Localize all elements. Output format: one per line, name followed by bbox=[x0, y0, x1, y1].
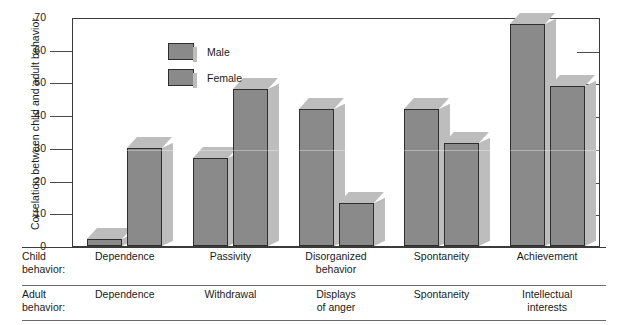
adult-cell-2: Displaysof anger bbox=[281, 288, 391, 314]
bar-face bbox=[299, 109, 334, 246]
label-line1: Dependence bbox=[70, 288, 180, 301]
child-behavior-row: Child behavior: DependencePassivityDisor… bbox=[22, 249, 606, 279]
chart-figure: Correlation between child and adult beha… bbox=[0, 0, 627, 325]
bar-shadow-side bbox=[162, 142, 173, 246]
adult-cell-0: Dependence bbox=[70, 288, 180, 301]
y-tick-label: .70 bbox=[31, 11, 46, 23]
bar-face bbox=[404, 109, 439, 246]
legend-swatch-female bbox=[168, 69, 194, 86]
bar-face bbox=[339, 203, 374, 246]
bar-face bbox=[444, 143, 479, 246]
y-tick-mark bbox=[50, 214, 72, 215]
bar-face bbox=[127, 148, 162, 246]
label-line2: interests bbox=[492, 301, 602, 314]
y-tick-label: .20 bbox=[31, 175, 46, 187]
label-line1: Spontaneity bbox=[387, 250, 497, 263]
label-line1: Intellectual bbox=[492, 288, 602, 301]
divider-middle bbox=[22, 285, 606, 286]
label-line1: Spontaneity bbox=[387, 288, 497, 301]
bar-face bbox=[87, 239, 122, 246]
y-tick-mark bbox=[50, 83, 72, 84]
legend-label-female: Female bbox=[207, 72, 242, 84]
bar-face bbox=[193, 158, 228, 246]
bar-shadow-side bbox=[479, 138, 490, 246]
bar-female-disorganized-behavior bbox=[339, 203, 374, 246]
bar-male-passivity bbox=[193, 158, 228, 246]
child-cell-3: Spontaneity bbox=[387, 250, 497, 263]
y-tick-mark bbox=[50, 116, 72, 117]
y-tick-label: .10 bbox=[31, 207, 46, 219]
label-line1: Displays bbox=[281, 288, 391, 301]
label-line1: Withdrawal bbox=[175, 288, 285, 301]
bar-male-dependence bbox=[87, 239, 122, 246]
bar-female-achievement bbox=[550, 86, 585, 246]
adult-cell-3: Spontaneity bbox=[387, 288, 497, 301]
legend-swatch-male bbox=[168, 43, 194, 60]
divider-bottom bbox=[22, 320, 606, 321]
adult-behavior-cells: DependenceWithdrawalDisplaysof angerSpon… bbox=[72, 288, 606, 316]
child-cell-4: Achievement bbox=[492, 250, 602, 263]
child-cell-2: Disorganizedbehavior bbox=[281, 250, 391, 276]
child-cell-0: Dependence bbox=[70, 250, 180, 263]
right-tick-p60 bbox=[577, 52, 599, 53]
y-tick-mark bbox=[50, 149, 72, 150]
adult-cell-1: Withdrawal bbox=[175, 288, 285, 301]
bar-female-spontaneity bbox=[444, 143, 479, 246]
divider-top bbox=[22, 247, 606, 248]
y-tick-label: .60 bbox=[31, 44, 46, 56]
label-line1: Disorganized bbox=[281, 250, 391, 263]
legend-item-female: Female bbox=[168, 69, 242, 86]
adult-title-line2: behavior: bbox=[22, 301, 78, 314]
child-cell-1: Passivity bbox=[175, 250, 285, 263]
bar-male-achievement bbox=[510, 24, 545, 246]
y-tick-label: .50 bbox=[31, 76, 46, 88]
bar-face bbox=[550, 86, 585, 246]
bar-female-dependence bbox=[127, 148, 162, 246]
adult-behavior-row: Adult behavior: DependenceWithdrawalDisp… bbox=[22, 287, 606, 317]
plot-area: Male Female bbox=[72, 18, 600, 247]
adult-cell-4: Intellectualinterests bbox=[492, 288, 602, 314]
bar-shadow-side bbox=[268, 84, 279, 246]
bar-face bbox=[510, 24, 545, 246]
bar-shadow-side bbox=[585, 80, 596, 246]
y-tick-mark bbox=[50, 182, 72, 183]
legend-label-male: Male bbox=[207, 46, 230, 58]
legend: Male Female bbox=[168, 43, 242, 95]
bar-female-passivity bbox=[233, 89, 268, 246]
y-tick-label: .40 bbox=[31, 109, 46, 121]
legend-item-male: Male bbox=[168, 43, 242, 60]
label-line1: Passivity bbox=[175, 250, 285, 263]
label-line1: Dependence bbox=[70, 250, 180, 263]
y-tick-mark bbox=[50, 51, 72, 52]
label-line2: of anger bbox=[281, 301, 391, 314]
child-behavior-cells: DependencePassivityDisorganizedbehaviorS… bbox=[72, 250, 606, 278]
label-line2: behavior bbox=[281, 263, 391, 276]
bar-face bbox=[233, 89, 268, 246]
bar-male-spontaneity bbox=[404, 109, 439, 246]
child-title-line2: behavior: bbox=[22, 263, 78, 276]
category-label-table: Child behavior: DependencePassivityDisor… bbox=[22, 249, 606, 317]
label-line1: Achievement bbox=[492, 250, 602, 263]
y-tick-label: .30 bbox=[31, 142, 46, 154]
bar-male-disorganized-behavior bbox=[299, 109, 334, 246]
bar-shadow-side bbox=[374, 198, 385, 246]
